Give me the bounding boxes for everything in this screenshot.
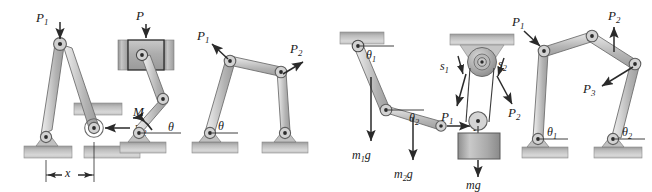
pin-apex: [54, 38, 67, 51]
label-m2g-suffix: g: [407, 167, 413, 181]
figure-canvas: P1 P2 x: [0, 0, 652, 192]
label-theta2-subscript: 2: [628, 132, 632, 141]
pin-elbow: [157, 93, 168, 104]
hanging-block: [458, 133, 500, 159]
pin-ground-right: [279, 127, 290, 138]
label-theta1-subscript: 1: [553, 132, 557, 141]
label-theta2-subscript: 2: [415, 118, 419, 127]
label-s2-subscript: 2: [503, 64, 507, 73]
label-m1g-suffix: g: [365, 148, 371, 162]
label-mg-suffix: g: [475, 178, 481, 192]
label-theta: θ: [218, 119, 224, 133]
label-p3-subscript: 3: [590, 88, 596, 98]
figure-background: [0, 0, 652, 192]
label-mg: mg: [466, 178, 481, 192]
label-p1-subscript: 1: [520, 21, 524, 31]
slider-guide-right: [164, 40, 174, 70]
pin-ground-left: [40, 131, 51, 142]
ceiling-support: [450, 34, 514, 45]
pin-top-joint: [586, 30, 598, 42]
label-p: P: [135, 8, 144, 23]
pin-left-joint: [538, 45, 550, 57]
mechanism-figure-sheet: P1 P2 x: [0, 0, 652, 192]
roller-guide-upper: [74, 103, 122, 115]
label-p1-subscript: 1: [44, 17, 48, 27]
fixed-pulley: [468, 48, 497, 77]
label-theta1-subscript: 1: [372, 55, 376, 64]
label-p1-subscript: 1: [449, 116, 453, 126]
label-m: M: [132, 104, 145, 119]
pin-slider: [136, 49, 147, 60]
label-x: x: [64, 166, 71, 180]
label-p2-subscript: 2: [516, 112, 521, 122]
label-s1-subscript: 1: [445, 66, 449, 75]
label-theta: θ: [168, 120, 174, 134]
slider-guide-left: [118, 40, 128, 70]
label-p2-subscript: 2: [298, 48, 303, 58]
label-p2-subscript: 2: [616, 15, 621, 25]
label-p1-subscript: 1: [205, 35, 209, 45]
